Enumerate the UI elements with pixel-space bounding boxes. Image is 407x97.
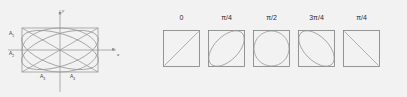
elliptical-polarization-left [292,24,340,72]
box-outline [209,31,245,67]
polarization-box-0-svg [163,30,200,67]
circular-polarization [254,31,289,66]
y-axis-label: y [62,8,64,13]
x-axis-label: x [117,52,119,57]
polarization-box-3-svg [298,30,335,67]
amplitude-rectangle-diagram: x y A1 A2 A3 A4 [0,0,150,97]
box-outline [299,31,335,67]
polarization-box-1-svg [208,30,245,67]
polarization-box-0 [163,30,200,67]
polarization-box-1 [208,30,245,67]
phase-label-3: 3π/4 [298,14,335,21]
phase-label-4: π/4 [343,14,380,21]
linear-polarization-down-line [345,32,379,66]
polarization-box-4 [343,30,380,67]
polarization-box-2-svg [253,30,290,67]
y-axis-arrow [59,12,61,14]
amplitude-label-a2: A2 [9,51,14,58]
amplitude-label-a4-sub: 4 [73,77,75,81]
phase-label-2: π/2 [253,14,290,21]
amplitude-label-a2-sub: 2 [12,54,14,58]
polarization-box-2 [253,30,290,67]
amplitude-label-a1-sub: 1 [12,34,14,38]
polarization-state-row: 0 π/4 π/2 3π/4 [150,0,407,97]
amplitude-label-a3-sub: 3 [43,77,45,81]
phase-label-0: 0 [163,14,200,21]
polarization-box-4-svg [343,30,380,67]
amplitude-label-a1: A1 [9,31,14,38]
elliptical-polarization-right [202,24,250,72]
amplitude-label-a3: A3 [40,74,45,81]
polarization-box-3 [298,30,335,67]
left-diagram-svg [0,0,150,97]
phase-label-1: π/4 [208,14,245,21]
x-axis-arrow [112,48,114,50]
amplitude-label-a4: A4 [70,74,75,81]
polarization-figure: x y A1 A2 A3 A4 0 π/4 [0,0,407,97]
linear-polarization-up-line [165,32,199,66]
